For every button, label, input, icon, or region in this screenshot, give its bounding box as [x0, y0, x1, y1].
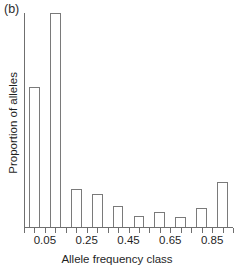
plot-area [24, 13, 233, 227]
x-tick-mark [24, 228, 25, 233]
x-tick-label: 0.85 [201, 234, 223, 247]
bar [134, 216, 145, 227]
x-tick-mark [191, 228, 192, 233]
x-tick-label: 0.05 [34, 234, 56, 247]
x-tick-mark [160, 228, 161, 233]
bar [71, 189, 82, 227]
x-tick-mark [87, 228, 88, 233]
x-tick-mark [34, 228, 35, 233]
x-tick-mark [170, 228, 171, 233]
panel-label: (b) [4, 3, 19, 16]
bar [113, 206, 124, 227]
x-tick-mark [233, 228, 234, 233]
x-tick-label: 0.25 [75, 234, 97, 247]
bar [175, 217, 186, 227]
x-tick-mark [212, 228, 213, 233]
x-tick-mark [139, 228, 140, 233]
figure-panel: (b) 0.050.250.450.650.85 Allele frequenc… [0, 0, 234, 270]
bar [217, 182, 228, 227]
bar [196, 208, 207, 227]
bar [29, 87, 40, 227]
bar [92, 194, 103, 227]
x-tick-label: 0.45 [117, 234, 139, 247]
x-tick-mark [55, 228, 56, 233]
x-tick-label: 0.65 [159, 234, 181, 247]
x-axis-title: Allele frequency class [0, 253, 234, 267]
x-tick-mark [129, 228, 130, 233]
x-tick-mark [118, 228, 119, 233]
bar [50, 13, 61, 227]
x-tick-mark [108, 228, 109, 233]
x-tick-mark [97, 228, 98, 233]
x-tick-mark [149, 228, 150, 233]
bar-series [24, 13, 233, 227]
x-tick-mark [223, 228, 224, 233]
y-axis-title: Proportion of alleles [7, 53, 21, 193]
x-tick-mark [76, 228, 77, 233]
x-tick-mark [202, 228, 203, 233]
x-axis-tick-labels: 0.050.250.450.650.85 [0, 234, 234, 250]
bar [154, 212, 165, 227]
x-tick-mark [66, 228, 67, 233]
x-tick-mark [181, 228, 182, 233]
x-axis-ticks [24, 228, 233, 233]
x-tick-mark [45, 228, 46, 233]
